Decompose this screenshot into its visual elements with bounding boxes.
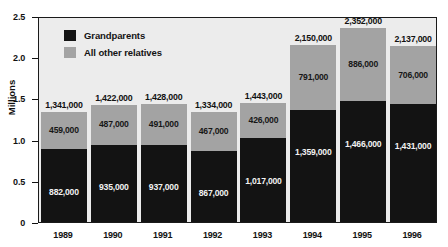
bar-segment-other-relatives: 491,000 bbox=[141, 104, 187, 144]
bar-segment-grandparents: 882,000 bbox=[41, 149, 87, 222]
x-tick-label: 1993 bbox=[253, 230, 272, 240]
legend-item: Grandparents bbox=[64, 28, 162, 42]
bar-segment-grandparents: 1,017,000 bbox=[240, 138, 286, 222]
bar-total-label: 1,443,000 bbox=[245, 92, 282, 101]
y-tick-label: 0.5 bbox=[13, 177, 25, 186]
y-tick-label: 2.5 bbox=[13, 13, 25, 22]
legend-swatch-icon bbox=[64, 30, 76, 41]
chart-legend: GrandparentsAll other relatives bbox=[64, 28, 162, 62]
bar-segment-value-label: 791,000 bbox=[298, 73, 328, 82]
bar-segment-value-label: 426,000 bbox=[249, 116, 279, 125]
bar-segment-other-relatives: 487,000 bbox=[91, 105, 137, 145]
bar-segment-value-label: 467,000 bbox=[199, 127, 229, 136]
plot-area: GrandparentsAll other relatives 1,341,00… bbox=[38, 17, 437, 223]
bar-segment-value-label: 706,000 bbox=[398, 71, 428, 80]
bar-segment-value-label: 491,000 bbox=[149, 120, 179, 129]
bar-total-label: 2,150,000 bbox=[295, 34, 332, 43]
bar-segment-value-label: 1,466,000 bbox=[345, 140, 381, 149]
bar-segment-value-label: 867,000 bbox=[199, 189, 229, 198]
x-tick-label: 1990 bbox=[103, 230, 122, 240]
stacked-bar-chart: Millions 00.51.01.52.02.5 GrandparentsAl… bbox=[0, 0, 448, 247]
bar-segment-value-label: 487,000 bbox=[99, 120, 129, 129]
legend-item-label: All other relatives bbox=[84, 47, 162, 58]
bar-segment-other-relatives: 459,000 bbox=[41, 112, 87, 150]
y-tick-label: 0 bbox=[20, 219, 25, 228]
bar-segment-other-relatives: 791,000 bbox=[290, 45, 336, 110]
y-tick-label: 2.0 bbox=[13, 54, 25, 63]
bar-segment-value-label: 882,000 bbox=[49, 188, 79, 197]
bar-segment-value-label: 1,017,000 bbox=[245, 177, 281, 186]
bar-segment-value-label: 1,359,000 bbox=[295, 148, 331, 157]
plot-inner: GrandparentsAll other relatives 1,341,00… bbox=[39, 18, 436, 222]
bar-segment-grandparents: 1,466,000 bbox=[340, 101, 386, 222]
bar-segment-grandparents: 1,359,000 bbox=[290, 110, 336, 222]
bar-total-label: 1,422,000 bbox=[95, 94, 132, 103]
y-tick-label: 1.5 bbox=[13, 95, 25, 104]
bar-segment-other-relatives: 706,000 bbox=[390, 46, 436, 104]
x-tick-label: 1995 bbox=[353, 230, 372, 240]
bar-total-label: 2,137,000 bbox=[394, 35, 431, 44]
x-tick-label: 1991 bbox=[153, 230, 172, 240]
bar-segment-other-relatives: 467,000 bbox=[191, 112, 237, 150]
bar-segment-value-label: 1,431,000 bbox=[395, 142, 431, 151]
bar-total-label: 2,352,000 bbox=[345, 17, 382, 26]
bar-segment-value-label: 459,000 bbox=[49, 126, 79, 135]
y-axis: Millions 00.51.01.52.02.5 bbox=[0, 0, 38, 247]
legend-swatch-icon bbox=[64, 47, 76, 58]
legend-item: All other relatives bbox=[64, 45, 162, 59]
x-tick-label: 1989 bbox=[53, 230, 72, 240]
bar-total-label: 1,334,000 bbox=[195, 101, 232, 110]
bar-segment-value-label: 935,000 bbox=[99, 183, 129, 192]
bar-group: 1,443,000426,0001,017,000 bbox=[240, 103, 286, 222]
bar-group: 2,137,000706,0001,431,000 bbox=[390, 46, 436, 222]
bar-group: 1,341,000459,000882,000 bbox=[41, 112, 87, 222]
bar-total-label: 1,428,000 bbox=[145, 93, 182, 102]
bar-group: 1,422,000487,000935,000 bbox=[91, 105, 137, 222]
bar-segment-other-relatives: 426,000 bbox=[240, 103, 286, 138]
x-axis: 19891990199119921993199419951996 bbox=[38, 223, 437, 247]
bar-segment-grandparents: 867,000 bbox=[191, 151, 237, 222]
bar-segment-grandparents: 937,000 bbox=[141, 145, 187, 222]
bar-segment-grandparents: 1,431,000 bbox=[390, 104, 436, 222]
bar-group: 1,334,000467,000867,000 bbox=[191, 112, 237, 222]
bar-total-label: 1,341,000 bbox=[45, 101, 82, 110]
legend-item-label: Grandparents bbox=[84, 30, 145, 41]
x-tick-label: 1994 bbox=[303, 230, 322, 240]
bar-segment-value-label: 937,000 bbox=[149, 183, 179, 192]
bar-segment-grandparents: 935,000 bbox=[91, 145, 137, 222]
bar-segment-other-relatives: 886,000 bbox=[340, 28, 386, 101]
bar-group: 2,352,000886,0001,466,000 bbox=[340, 28, 386, 222]
bar-segment-value-label: 886,000 bbox=[348, 60, 378, 69]
bar-group: 1,428,000491,000937,000 bbox=[141, 104, 187, 222]
bar-group: 2,150,000791,0001,359,000 bbox=[290, 45, 336, 222]
y-tick-label: 1.0 bbox=[13, 136, 25, 145]
x-tick-label: 1996 bbox=[402, 230, 421, 240]
x-tick-label: 1992 bbox=[203, 230, 222, 240]
